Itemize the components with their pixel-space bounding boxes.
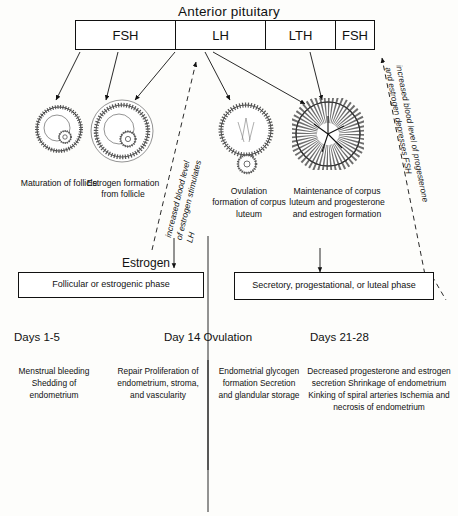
follicle-maturation-icon <box>32 100 86 158</box>
endometrium-column-repair: Repair Proliferation of endometrium, str… <box>112 366 204 402</box>
day-label-21-28: Days 21-28 <box>310 330 369 344</box>
endometrium-column-glycogen: Endometrial glycogen formation Secretion… <box>216 366 302 402</box>
estrogen-label: Estrogen <box>60 256 170 270</box>
stage-caption-estrogen-formation: Estrogen formation from follicle <box>78 178 168 201</box>
day-label-14-ovulation: Day 14 Ovulation <box>158 330 258 344</box>
hormone-cell-fsh-1: FSH <box>76 21 176 49</box>
anterior-pituitary-hormone-bar: FSH LH LTH FSH <box>75 20 375 50</box>
stage-caption-corpus-luteum: Maintenance of corpus luteum and progest… <box>288 186 386 220</box>
feedback-annotation-left: increased blood level of estrogen stimul… <box>163 156 215 243</box>
stage-caption-ovulation: Ovulation formation of corpus luteum <box>212 186 286 220</box>
feedback-annotation-right: increased blood level of progesterone an… <box>383 64 431 205</box>
hormone-cell-lh: LH <box>176 21 266 49</box>
corpus-luteum-maintenance-icon <box>292 98 364 170</box>
follicle-estrogen-icon <box>88 96 156 166</box>
page-title: Anterior pituitary <box>0 4 458 20</box>
ovulation-corpus-luteum-icon <box>218 100 276 178</box>
day-label-1-5: Days 1-5 <box>14 330 60 344</box>
phase-box-secretory: Secretory, progestational, or luteal pha… <box>234 272 434 300</box>
diagram-canvas: Anterior pituitary FSH LH LTH FSH <box>0 0 458 516</box>
hormone-cell-fsh-2: FSH <box>336 21 374 49</box>
endometrium-column-menstrual: Menstrual bleeding Shedding of endometri… <box>8 366 100 402</box>
endometrium-column-degeneration: Decreased progesterone and estrogen secr… <box>306 366 452 414</box>
phase-box-follicular: Follicular or estrogenic phase <box>18 272 204 298</box>
hormone-cell-lth: LTH <box>266 21 336 49</box>
